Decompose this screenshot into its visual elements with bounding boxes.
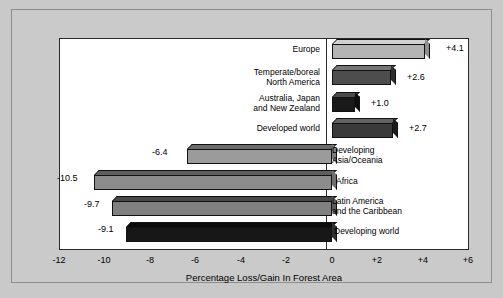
bar-side-face bbox=[355, 92, 360, 112]
xtick-minus-2: -2 bbox=[271, 255, 301, 266]
category-label-developed-world: Developed world bbox=[212, 123, 320, 133]
category-label-line: Asia/Oceania bbox=[332, 155, 462, 165]
xtick-minus-4: -4 bbox=[226, 255, 256, 266]
bar-side-face bbox=[393, 118, 398, 138]
value-label-africa: -10.5 bbox=[57, 173, 78, 183]
category-label-line: North America bbox=[212, 77, 320, 87]
xtick-plus-2: +2 bbox=[362, 255, 392, 266]
category-label-line: Developing bbox=[332, 145, 462, 155]
category-label-line: and New Zealand bbox=[212, 103, 320, 113]
bar-front-face bbox=[112, 201, 332, 216]
value-label-temperate-boreal-north-america: +2.6 bbox=[407, 72, 425, 82]
category-label-developing-asia-oceania: Developing Asia/Oceania bbox=[332, 145, 462, 165]
category-label-line: Developed world bbox=[212, 123, 320, 133]
value-label-latin-america-caribbean: -9.7 bbox=[84, 199, 100, 209]
xtick-zero: 0 bbox=[317, 255, 347, 266]
bar-front-face bbox=[332, 70, 391, 85]
figure-frame: +4.1 +2.6 +1.0 +2.7 -6.4 -10.5 -9.7 -9.1… bbox=[11, 9, 492, 283]
category-label-line: and the Caribbean bbox=[332, 206, 467, 216]
figure-container: +4.1 +2.6 +1.0 +2.7 -6.4 -10.5 -9.7 -9.1… bbox=[0, 0, 503, 298]
bar-front-face bbox=[332, 123, 393, 138]
bar-front-face bbox=[187, 149, 332, 164]
category-label-line: Africa bbox=[336, 176, 466, 186]
bar-front-face bbox=[332, 97, 355, 112]
bar-front-face bbox=[126, 227, 332, 242]
value-label-developing-world: -9.1 bbox=[98, 224, 114, 234]
x-axis-title: Percentage Loss/Gain In Forest Area bbox=[59, 272, 469, 284]
category-label-developing-world: Developing world bbox=[334, 226, 464, 236]
bar-side-face bbox=[425, 39, 430, 59]
value-label-developing-asia-oceania: -6.4 bbox=[152, 147, 168, 157]
category-label-africa: Africa bbox=[336, 176, 466, 186]
value-label-europe: +4.1 bbox=[446, 43, 464, 53]
xtick-plus-6: +6 bbox=[453, 255, 483, 266]
category-label-europe: Europe bbox=[212, 44, 320, 54]
category-label-line: Latin America bbox=[332, 196, 467, 206]
xtick-minus-8: -8 bbox=[135, 255, 165, 266]
category-label-line: Temperate/boreal bbox=[212, 67, 320, 77]
xtick-minus-6: -6 bbox=[180, 255, 210, 266]
category-label-latin-america-caribbean: Latin America and the Caribbean bbox=[332, 196, 467, 216]
value-label-developed-world: +2.7 bbox=[409, 123, 427, 133]
category-label-temperate-boreal-north-america: Temperate/boreal North America bbox=[212, 67, 320, 87]
bar-front-face bbox=[94, 175, 332, 190]
value-label-australia-japan-new-zealand: +1.0 bbox=[371, 98, 389, 108]
xtick-minus-12: -12 bbox=[44, 255, 74, 266]
category-label-line: Europe bbox=[212, 44, 320, 54]
xtick-minus-10: -10 bbox=[89, 255, 119, 266]
xtick-plus-4: +4 bbox=[408, 255, 438, 266]
category-label-line: Developing world bbox=[334, 226, 464, 236]
category-label-australia-japan-new-zealand: Australia, Japan and New Zealand bbox=[212, 93, 320, 113]
bar-front-face bbox=[332, 44, 425, 59]
bar-side-face bbox=[391, 65, 396, 85]
category-label-line: Australia, Japan bbox=[212, 93, 320, 103]
